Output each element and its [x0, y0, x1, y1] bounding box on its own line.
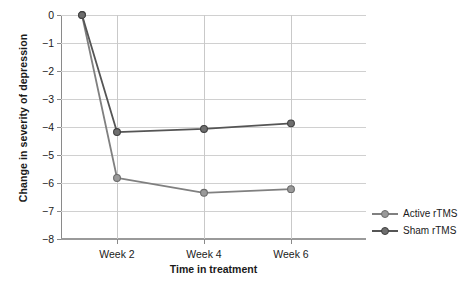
x-tick-label: Week 2 — [99, 248, 134, 260]
x-tick-label: Week 6 — [273, 248, 308, 260]
x-tick-mark — [291, 239, 292, 244]
y-tick-label: −1 — [42, 37, 54, 49]
y-tick-label: −8 — [42, 233, 54, 245]
y-tick-label: −4 — [42, 121, 54, 133]
legend-label: Sham rTMS — [403, 225, 456, 236]
y-tick-mark — [57, 239, 61, 240]
chart-legend: Active rTMSSham rTMS — [372, 205, 458, 239]
y-axis-title: Change in severity of depression — [17, 3, 29, 233]
data-point-marker — [114, 129, 121, 136]
data-point-marker — [201, 126, 208, 133]
x-tick-mark — [204, 239, 205, 244]
data-point-marker — [288, 186, 295, 193]
y-tick-label: −5 — [42, 149, 54, 161]
data-point-marker — [288, 120, 295, 127]
data-series-layer — [61, 15, 366, 239]
data-point-marker — [114, 175, 121, 182]
x-axis-title: Time in treatment — [61, 263, 366, 275]
x-tick-mark — [117, 239, 118, 244]
y-tick-label: −7 — [42, 205, 54, 217]
series-line-sham-rtms — [82, 15, 291, 132]
y-tick-label: −3 — [42, 93, 54, 105]
legend-marker-icon — [372, 225, 398, 236]
data-point-marker — [79, 12, 86, 19]
legend-item[interactable]: Active rTMS — [372, 205, 458, 222]
x-tick-label: Week 4 — [186, 248, 221, 260]
data-point-marker — [201, 189, 208, 196]
chart-container: Change in severity of depression 0−1−2−3… — [0, 0, 458, 293]
legend-marker-icon — [372, 208, 398, 219]
legend-label: Active rTMS — [403, 208, 457, 219]
series-line-active-rtms — [82, 15, 291, 193]
plot-area: 0−1−2−3−4−5−6−7−8 Week 2Week 4Week 6 — [61, 15, 366, 239]
legend-item[interactable]: Sham rTMS — [372, 222, 458, 239]
y-tick-label: 0 — [48, 9, 54, 21]
y-tick-label: −6 — [42, 177, 54, 189]
y-tick-label: −2 — [42, 65, 54, 77]
